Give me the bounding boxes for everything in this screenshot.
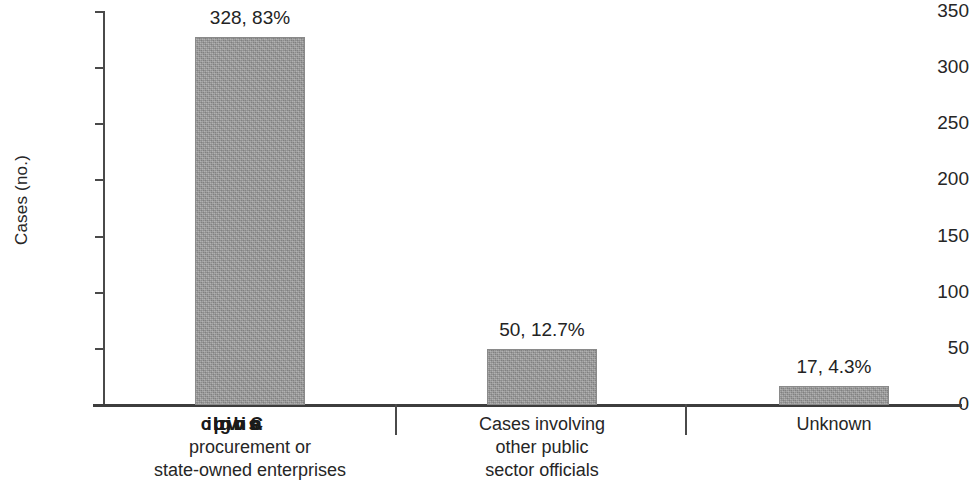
category-label-public-procurement: Cases involving publicprocurement orstat… xyxy=(100,413,400,482)
y-axis-tick-label: 350 xyxy=(883,0,969,22)
category-label-line: state-owned enterprises xyxy=(100,459,400,482)
y-axis-line xyxy=(103,11,105,406)
category-label-line: other public xyxy=(392,436,692,459)
category-label-line: Cases involving public xyxy=(100,413,400,436)
category-label-line: Cases involving xyxy=(392,413,692,436)
y-axis-tick-250 xyxy=(95,123,104,125)
category-label-line: Unknown xyxy=(684,413,969,436)
y-axis-tick-300 xyxy=(95,67,104,69)
y-axis-tick-350 xyxy=(95,11,104,13)
bar-other-public-sector xyxy=(487,349,597,405)
y-axis-tick-label: 150 xyxy=(883,225,969,247)
y-axis-title: Cases (no.) xyxy=(12,110,32,290)
y-axis-tick-label: 300 xyxy=(883,56,969,78)
y-axis-tick-200 xyxy=(95,179,104,181)
category-label-unknown: Unknown xyxy=(684,413,969,436)
bar-value-label-public-procurement: 328, 83% xyxy=(140,7,360,29)
bar-chart: Cases (no.) 350300250200150100500 328, 8… xyxy=(0,0,969,488)
bar-public-procurement xyxy=(195,37,305,405)
category-label-line: sector officials xyxy=(392,459,692,482)
y-axis-tick-150 xyxy=(95,236,104,238)
category-label-line: procurement or xyxy=(100,436,400,459)
bar-value-label-unknown: 17, 4.3% xyxy=(724,356,944,378)
y-axis-tick-label: 250 xyxy=(883,112,969,134)
y-axis-tick-50 xyxy=(95,348,104,350)
y-axis-tick-label: 100 xyxy=(883,281,969,303)
y-axis-tick-100 xyxy=(95,292,104,294)
category-label-other-public-sector: Cases involvingother publicsector offici… xyxy=(392,413,692,482)
bar-unknown xyxy=(779,386,889,405)
y-axis-tick-label: 200 xyxy=(883,168,969,190)
bar-value-label-other-public-sector: 50, 12.7% xyxy=(432,319,652,341)
